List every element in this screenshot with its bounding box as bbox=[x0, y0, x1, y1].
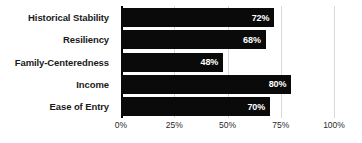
category-label-income: Income bbox=[0, 75, 115, 94]
bar-value-label: 80% bbox=[269, 79, 287, 89]
bar-row: 70% bbox=[121, 97, 334, 116]
plot-area: 72% 68% 48% 80% 70% bbox=[121, 6, 334, 118]
bar-series: 72% 68% 48% 80% 70% bbox=[121, 8, 334, 116]
bar-historical-stability: 72% bbox=[121, 8, 274, 27]
bar-value-label: 70% bbox=[247, 102, 265, 112]
category-label-resiliency: Resiliency bbox=[0, 30, 115, 49]
bar-ease-of-entry: 70% bbox=[121, 97, 270, 116]
value-tick-label: 50% bbox=[219, 120, 236, 130]
gridline-100pct bbox=[334, 6, 335, 118]
category-label-ease-of-entry: Ease of Entry bbox=[0, 97, 115, 116]
value-tick-label: 75% bbox=[272, 120, 289, 130]
value-tick-label: 0% bbox=[115, 120, 127, 130]
bar-value-label: 72% bbox=[252, 13, 270, 23]
category-label-historical-stability: Historical Stability bbox=[0, 8, 115, 27]
category-axis: Historical Stability Resiliency Family-C… bbox=[0, 8, 115, 116]
value-axis: 0%25%50%75%100% bbox=[121, 120, 334, 136]
value-tick-label: 100% bbox=[323, 120, 345, 130]
bar-resiliency: 68% bbox=[121, 30, 266, 49]
bar-income: 80% bbox=[121, 75, 291, 94]
bar-row: 68% bbox=[121, 30, 334, 49]
bar-value-label: 68% bbox=[243, 35, 261, 45]
bar-row: 80% bbox=[121, 75, 334, 94]
bar-family-centeredness: 48% bbox=[121, 53, 223, 72]
category-label-family-centeredness: Family-Centeredness bbox=[0, 53, 115, 72]
value-tick-label: 25% bbox=[166, 120, 183, 130]
bar-row: 72% bbox=[121, 8, 334, 27]
bar-chart: Historical Stability Resiliency Family-C… bbox=[0, 0, 362, 143]
bar-value-label: 48% bbox=[201, 57, 219, 67]
bar-row: 48% bbox=[121, 53, 334, 72]
